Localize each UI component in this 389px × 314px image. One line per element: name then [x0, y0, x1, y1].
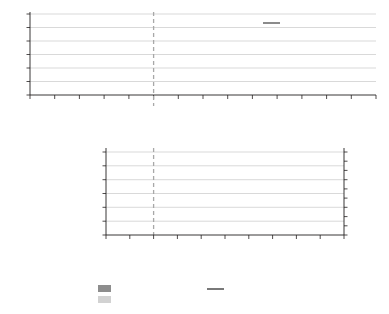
top-chart-y-tick-marks — [27, 14, 31, 95]
legend-swatch-bank-loans — [98, 285, 111, 292]
top-chart-panel — [27, 12, 377, 106]
bottom-chart-gridlines — [106, 152, 344, 221]
bottom-chart-legend — [98, 285, 224, 303]
bottom-chart-y-tick-marks — [103, 152, 107, 235]
top-chart-x-tick-marks — [30, 95, 376, 99]
bottom-chart-y2-tick-marks — [344, 152, 348, 235]
top-chart-gridlines — [30, 14, 376, 82]
bottom-chart-panel — [103, 148, 348, 239]
bottom-chart-x-tick-marks — [106, 235, 344, 239]
legend-swatch-non-bank-financing — [98, 296, 111, 303]
dual-panel-chart — [0, 0, 389, 314]
figure-container — [0, 0, 389, 314]
